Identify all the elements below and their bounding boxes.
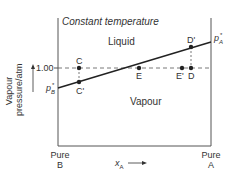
point-c [77, 66, 81, 70]
x-axis-label: xA [115, 158, 124, 172]
pure-a-label: PureA [200, 150, 222, 170]
y-axis-label: Vapour pressure/atm [4, 66, 30, 116]
point-e [137, 66, 141, 70]
region-liquid: Liquid [108, 37, 135, 47]
point-e-prime [180, 66, 184, 70]
label-e-prime: E' [176, 71, 184, 81]
label-c-prime: C' [76, 86, 84, 96]
y-axis-label-line2: pressure/atm [14, 66, 24, 116]
pa-star-sup: * [220, 30, 222, 40]
point-c-prime [77, 80, 81, 84]
label-c: C [76, 56, 83, 66]
diagram-title: Constant temperature [62, 17, 159, 27]
x-arrowhead-icon [142, 161, 147, 165]
y-axis-label-line1: Vapour [4, 66, 14, 116]
y-tick-label: 1.00 [36, 63, 54, 73]
label-d: D [188, 71, 195, 81]
pb-star-sup: * [52, 80, 54, 90]
point-d-prime [189, 45, 193, 49]
label-e: E [136, 71, 142, 81]
point-d [189, 66, 193, 70]
region-vapour: Vapour [130, 97, 162, 107]
y-arrowhead-icon [31, 64, 35, 69]
label-d-prime: D' [187, 35, 195, 45]
pure-b-label: PureB [49, 150, 71, 170]
